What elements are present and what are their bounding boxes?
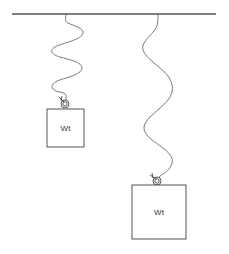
right-hook-icon [150, 173, 161, 185]
left-spring [52, 14, 83, 100]
spring-mass-diagram: Wt Wt [0, 0, 229, 254]
large-weight: Wt [132, 185, 186, 239]
left-hook-icon [59, 96, 69, 108]
small-weight: Wt [47, 109, 84, 147]
small-weight-label: Wt [61, 124, 72, 133]
large-weight-label: Wt [154, 208, 165, 217]
right-spring [143, 14, 173, 177]
